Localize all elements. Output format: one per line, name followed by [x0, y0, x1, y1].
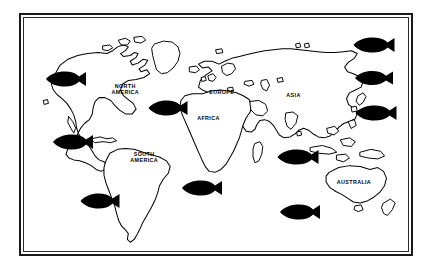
arctic-island-2: [134, 36, 146, 43]
fish-marker: [147, 100, 190, 116]
ireland-outline: [201, 77, 206, 82]
map-border-frame: NORTH AMERICA SOUTH AMERICA EUROPE AFRIC…: [19, 13, 413, 256]
fish-marker: [354, 70, 396, 85]
new-guinea-outline: [360, 149, 384, 159]
philippines-island: [348, 120, 356, 129]
arctic-island-3: [103, 45, 113, 51]
pacific-island-dot-1: [44, 100, 49, 105]
fish-marker: [45, 71, 89, 87]
black-sea-outline: [244, 80, 254, 86]
borneo-island: [337, 154, 350, 162]
madagascar-outline: [253, 142, 263, 163]
north-sea-dot: [216, 49, 223, 54]
continent-label-australia: AUSTRALIA: [337, 180, 371, 186]
world-map-figure: NORTH AMERICA SOUTH AMERICA EUROPE AFRIC…: [0, 0, 431, 269]
arctic-island-1: [119, 38, 131, 45]
arctic-dot-2: [305, 43, 310, 48]
japan-outline: [356, 93, 366, 105]
continent-label-europe: EUROPE: [209, 90, 234, 96]
map-canvas: NORTH AMERICA SOUTH AMERICA EUROPE AFRIC…: [27, 21, 405, 248]
continent-label-south-america: SOUTH AMERICA: [130, 153, 158, 165]
fish-marker: [52, 134, 96, 150]
africa-outline: [180, 90, 252, 172]
fish-marker: [79, 193, 122, 209]
map-border-inner-rule: NORTH AMERICA SOUTH AMERICA EUROPE AFRIC…: [23, 17, 409, 252]
new-zealand-outline: [382, 199, 396, 215]
indonesia-island-2: [341, 138, 356, 147]
fish-marker: [181, 180, 225, 196]
fish-marker: [277, 149, 322, 165]
continent-label-asia: ASIA: [286, 93, 300, 99]
fish-marker: [352, 37, 397, 53]
continent-label-north-america: NORTH AMERICA: [111, 84, 139, 96]
fish-marker: [354, 105, 399, 121]
continent-label-africa: AFRICA: [197, 116, 219, 122]
tasmania-outline: [354, 205, 363, 212]
greenland-outline: [152, 41, 180, 74]
arctic-dot-1: [296, 43, 301, 48]
iceland-outline: [190, 66, 200, 73]
aral-sea-outline: [277, 78, 283, 83]
sri-lanka-outline: [297, 131, 302, 136]
fish-marker: [279, 204, 323, 220]
